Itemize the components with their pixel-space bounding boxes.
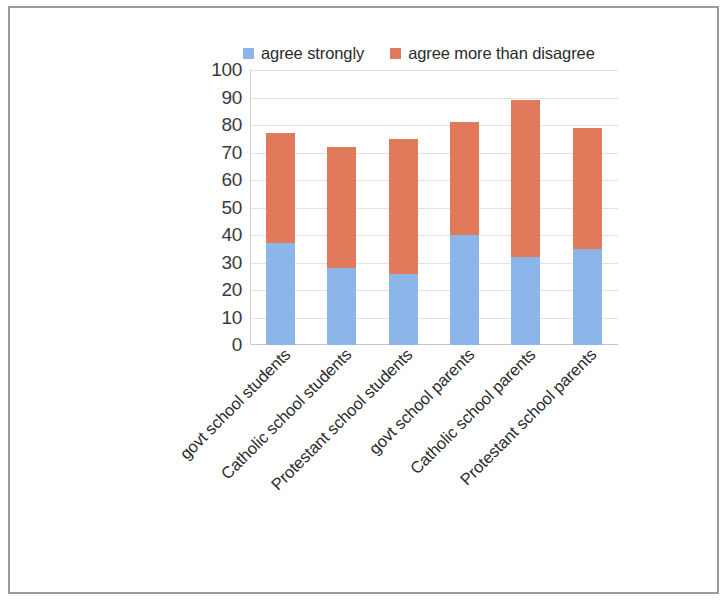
x-axis-tick-labels: govt school studentsCatholic school stud… [250,345,618,555]
y-axis-tick-60: 60 [221,169,242,191]
bar-series-container [250,70,618,345]
chart-page: agree strongly agree more than disagree … [0,0,727,604]
stacked-bar[interactable] [266,133,295,345]
y-axis-tick-20: 20 [221,279,242,301]
bar-segment-agree-more-than-disagree[interactable] [389,139,418,274]
stacked-bar[interactable] [389,139,418,345]
page-border-right [717,6,719,594]
bar-segment-agree-more-than-disagree[interactable] [573,128,602,249]
legend-label-agree-strongly: agree strongly [261,44,364,63]
x-axis-tick-label: govt school students [176,345,294,463]
bar-slot [311,70,372,345]
bar-segment-agree-strongly[interactable] [389,274,418,346]
y-axis-tick-0: 0 [232,334,242,356]
bar-segment-agree-strongly[interactable] [450,235,479,345]
bar-slot [495,70,556,345]
bar-slot [250,70,311,345]
legend-item-agree-strongly: agree strongly [243,44,364,63]
x-axis-tick-label: govt school parents [365,345,478,458]
stacked-bar[interactable] [450,122,479,345]
bar-slot [434,70,495,345]
bar-segment-agree-more-than-disagree[interactable] [450,122,479,235]
bar-segment-agree-more-than-disagree[interactable] [327,147,356,268]
bar-slot [557,70,618,345]
y-axis-tick-100: 100 [211,59,242,81]
page-border-left [8,6,10,594]
bar-segment-agree-strongly[interactable] [511,257,540,345]
y-axis-tick-30: 30 [221,252,242,274]
stacked-bar[interactable] [573,128,602,345]
legend-swatch-icon-agree-strongly [243,48,254,59]
bar-segment-agree-strongly[interactable] [327,268,356,345]
chart-legend: agree strongly agree more than disagree [243,44,595,63]
page-border-bottom [8,592,719,594]
legend-label-agree-more-than-disagree: agree more than disagree [408,44,595,63]
page-border-top [8,6,719,8]
chart-plot-area [250,70,618,345]
y-axis-tick-labels: 1009080706050403020100 [190,70,246,345]
y-axis-tick-40: 40 [221,224,242,246]
bar-segment-agree-strongly[interactable] [573,249,602,345]
bar-segment-agree-more-than-disagree[interactable] [266,133,295,243]
stacked-bar[interactable] [511,100,540,345]
legend-item-agree-more-than-disagree: agree more than disagree [390,44,595,63]
y-axis-tick-10: 10 [221,307,242,329]
y-axis-tick-80: 80 [221,114,242,136]
bar-segment-agree-more-than-disagree[interactable] [511,100,540,257]
stacked-bar[interactable] [327,147,356,345]
bar-segment-agree-strongly[interactable] [266,243,295,345]
bar-slot [373,70,434,345]
y-axis-tick-90: 90 [221,87,242,109]
y-axis-tick-50: 50 [221,197,242,219]
legend-swatch-icon-agree-more-than-disagree [390,48,401,59]
y-axis-tick-70: 70 [221,142,242,164]
